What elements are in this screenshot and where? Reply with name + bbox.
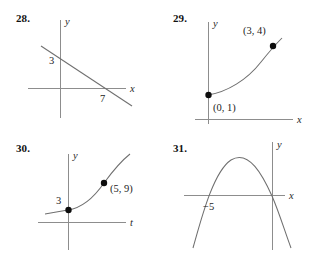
y-intercept-label-30: 3	[56, 195, 61, 206]
point-label-5-9-30: (5, 9)	[110, 183, 133, 195]
figure-31: y x −5	[157, 132, 313, 264]
x-axis-label-29: x	[296, 114, 302, 125]
data-point-3-4-29	[270, 43, 276, 49]
figure-28: y x 3 7	[0, 0, 156, 132]
y-intercept-label-28: 3	[49, 55, 54, 66]
y-axis-label-29: y	[212, 18, 218, 29]
graph-30: y t 3 (5, 9)	[0, 132, 156, 264]
problem-panel-29: 29. y x (3, 4) (0, 1)	[157, 0, 313, 132]
data-point-5-9-30	[101, 180, 107, 186]
y-axis-label-30: y	[72, 150, 78, 161]
point-label-3-4-29: (3, 4)	[243, 25, 266, 37]
problem-panel-28: 28. y x 3 7	[0, 0, 156, 132]
t-axis-label-30: t	[130, 217, 134, 228]
exercise-figure-sheet: 28. y x 3 7 29.	[0, 0, 313, 264]
graph-31: y x −5	[157, 132, 313, 264]
point-label-0-1-29: (0, 1)	[213, 102, 236, 114]
x-axis-label-31: x	[288, 190, 294, 201]
x-axis-label-28: x	[129, 83, 135, 94]
y-axis-label-28: y	[64, 16, 70, 27]
problem-panel-31: 31. y x −5	[157, 132, 313, 264]
graph-28: y x 3 7	[0, 0, 156, 132]
line-graph-28	[41, 46, 132, 106]
data-point-y-intercept-30	[65, 207, 71, 213]
graph-29: y x (3, 4) (0, 1)	[157, 0, 313, 132]
figure-29: y x (3, 4) (0, 1)	[157, 0, 313, 132]
problem-panel-30: 30. y t 3 (5, 9)	[0, 132, 156, 264]
y-axis-label-31: y	[276, 139, 282, 150]
data-point-0-1-29	[205, 92, 211, 98]
figure-30: y t 3 (5, 9)	[0, 132, 156, 264]
x-intercept-label-31: −5	[203, 201, 214, 212]
x-intercept-label-28: 7	[100, 93, 105, 104]
